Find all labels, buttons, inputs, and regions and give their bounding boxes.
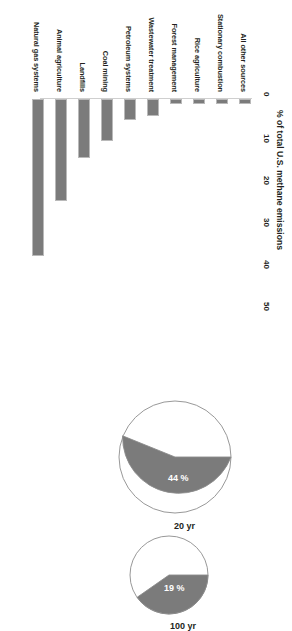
bar-chart: 0 10 20 30 40 50 % of total U.S. methane…: [0, 0, 292, 390]
bar-label-petroleum-systems: Petroleum systems: [125, 0, 132, 92]
bar-label-landfills: Landfills: [79, 0, 86, 92]
bar-label-coal-mining: Coal mining: [102, 0, 109, 92]
pie-20yr-slice-label: 44 %: [168, 474, 189, 483]
y-tick-0: 0: [262, 92, 270, 96]
y-tick-10: 10: [262, 134, 270, 143]
y-axis-title: % of total U.S. methane emissions: [275, 110, 284, 250]
bar-label-rice-agriculture: Rice agriculture: [194, 0, 201, 92]
bar-label-animal-agriculture: Animal agriculture: [56, 0, 63, 92]
bar-animal-agriculture: [55, 99, 67, 201]
bar-landfills: [78, 99, 90, 158]
pie-20yr-title: 20 yr: [174, 522, 195, 531]
bar-label-stationary-combustion: Stationary combustion: [217, 0, 224, 92]
bar-label-forest-management: Forest management: [171, 0, 178, 92]
pie-100yr-svg: [128, 534, 210, 616]
y-tick-20: 20: [262, 176, 270, 185]
pie-20yr: 44 %: [112, 398, 234, 516]
y-tick-40: 40: [262, 260, 270, 269]
bar-natural-gas-systems: [32, 99, 44, 256]
bar-coal-mining: [101, 99, 113, 141]
pie-chart-group: 44 % 20 yr 19 % 100 yr: [0, 390, 292, 590]
y-tick-30: 30: [262, 218, 270, 227]
y-tick-50: 50: [262, 302, 270, 311]
pie-20yr-svg: [116, 398, 234, 516]
pie-100yr-slice-label: 19 %: [164, 584, 185, 593]
pie-100yr: 19 %: [124, 534, 210, 616]
bar-petroleum-systems: [124, 99, 136, 120]
bar-forest-management: [170, 99, 182, 104]
bar-label-all-other-sources: All other sources: [240, 0, 247, 92]
bar-rice-agriculture: [193, 99, 205, 104]
bar-label-natural-gas-systems: Natural gas systems: [33, 0, 40, 92]
bar-label-wastewater-treatment: Wastewater treatment: [148, 0, 155, 92]
bar-wastewater-treatment: [147, 99, 159, 116]
bar-all-other-sources: [239, 99, 251, 104]
bar-stationary-combustion: [216, 99, 228, 104]
pie-100yr-title: 100 yr: [170, 622, 196, 631]
